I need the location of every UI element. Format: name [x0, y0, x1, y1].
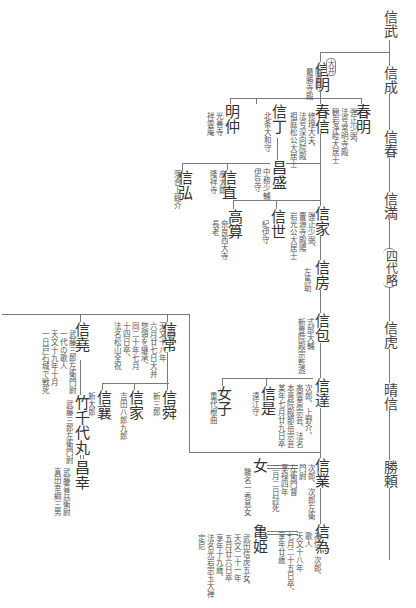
connector [256, 98, 257, 104]
note-nobuie: 弾正少弼、 曹源寺殿陽 岩光公大居士 [288, 212, 315, 260]
genealogy-chart: 信武 信成 信春 信満 四代略 信虎 晴信 勝頼 信明 大井 陸奥守 最勝寺殿 … [0, 0, 416, 608]
main-node-katsuyori: 勝頼 [382, 460, 397, 488]
note-nobucho: 北条大和守 [262, 112, 271, 152]
node-nobujo: 信襄 [95, 390, 111, 420]
node-nobusato: 信達 [313, 378, 329, 408]
node-nobucho: 信丁 [270, 104, 286, 134]
main-node-harunobu: 晴信 [382, 383, 397, 411]
note-nobuie-yoshida: 吉田八郎九郎 [118, 392, 127, 440]
connector [80, 314, 81, 322]
main-node-nobuharu: 信春 [382, 130, 397, 158]
note-nobunao: 彦太郎 隆祥寺 [208, 170, 226, 194]
connector [102, 383, 169, 384]
note-meichu: 光善寺 祥雲庵 [205, 112, 223, 136]
note-joshi: 重代根曲 [208, 392, 217, 424]
node-masamori: 昌盛 [270, 160, 286, 190]
note-nobuhiro: 落合上総介 [172, 170, 181, 210]
connector [222, 378, 321, 379]
note-masamori: 中務少輔 伊豆守 [252, 168, 270, 200]
note-nobuaki: 陸奥守 最勝寺殿 [304, 68, 322, 100]
main-node-nobumitsu: 信満 [382, 192, 397, 220]
node-joshi: 女子 [215, 386, 231, 416]
node-nobukiyo: 信舜 [160, 390, 176, 420]
main-node-nobushige: 信成 [382, 66, 397, 94]
note-haruaki: 弾正少弼、 法号常明寺殿 観岩浄睦大居士 [330, 108, 357, 164]
node-nobukane: 信包 [313, 313, 329, 343]
node-kamehime: 亀姫 [251, 524, 267, 554]
connector [230, 98, 362, 99]
note-nobukore: 遠江守 [250, 392, 259, 416]
note-nobuyo: 紀伊守 [260, 220, 269, 244]
note-nobutame: 為信、次郎、 歌人 天文十八年 七月二十五日卒、 享年廿歳 [276, 532, 321, 596]
node-harunobu: 春信 [313, 104, 329, 134]
note-masayuki: 武藤喜兵衛尉 真田幸綱三男 [52, 468, 70, 516]
connector [2, 314, 190, 315]
node-onna: 女 [251, 458, 267, 473]
note-onna: 雛名一秀息女 [242, 468, 251, 516]
note-harunobu: 修理大夫、 法号深向院殿 祖庭松公大居士 [288, 112, 315, 168]
main-node-omitted: 四代略 [383, 248, 396, 288]
node-masayuki: 昌幸 [73, 460, 89, 490]
node-nobuie-yoshida: 信家 [127, 390, 143, 420]
note-nobukane: 式部大輔 新豊院殿宗乾透 [296, 318, 314, 374]
note-kosan: 奈良西大寺 長老 [210, 220, 228, 260]
main-node-nobutake: 信武 [382, 10, 397, 38]
connector [233, 200, 321, 201]
note-nobukiyo: 新三郎 [151, 392, 160, 416]
node-takechiyomaru: 竹千代丸 [73, 395, 89, 455]
node-kosan: 高算 [226, 209, 242, 239]
connector [320, 52, 390, 53]
node-nobufusa: 信房 [313, 260, 329, 290]
node-nobunari: 信業 [313, 458, 329, 488]
note-nobunari: 次郎、次郎左衛 門尉 左衛門督 享禄四年 二月二日討死 [270, 464, 315, 520]
note-nobufusa: 左馬助 [302, 268, 311, 292]
note-nobusato: 次郎、上野介、 高雲斎宗芸、法名 本晋院殿節岳宗芸 某年七月廿九日卒 [276, 384, 312, 448]
connector [80, 360, 81, 395]
node-nobuyo: 信世 [269, 209, 285, 239]
node-nobukore: 信是 [259, 386, 275, 416]
connector [167, 314, 168, 322]
note-takechiyomaru: 武藤三郎左衛門尉 [64, 400, 73, 464]
node-nobuie: 信家 [313, 206, 329, 236]
connector [189, 452, 321, 453]
node-meichu: 明仲 [223, 104, 239, 134]
note-kamehime: 武田信虎五女、 天文二十一年 五月廿六日卒 享年十九歳、 法名光岩宗玉大禅 定尼 [196, 534, 250, 598]
connector [189, 314, 190, 452]
note-nobutsune: 上野介、 天文十八年 六月廿七日大井 惣領を継承、 同二十年七月 十四日卒、 法… [112, 322, 175, 378]
note-nobutaka: 武藤三郎左衛門尉 一代の歌人 天文十九年十月 一日戸石城で戦死 [40, 330, 76, 394]
tag-oi: 大井 [326, 58, 336, 76]
main-node-nobutora: 信虎 [382, 321, 397, 349]
